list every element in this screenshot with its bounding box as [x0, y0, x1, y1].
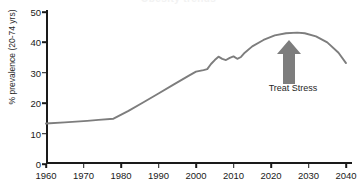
x-tick-label: 2030 [298, 170, 319, 181]
chart-figure: Obesity trends % prevalence (20-74 yrs) … [0, 0, 357, 183]
x-tick-mark [83, 164, 85, 168]
x-tick-label: 1990 [148, 170, 169, 181]
x-tick-mark [195, 164, 197, 168]
series-path-prevalence [46, 33, 346, 124]
y-tick-label: 0 [36, 159, 41, 170]
x-tick-mark [308, 164, 310, 168]
y-tick-label: 30 [30, 67, 41, 78]
x-tick-label: 2000 [185, 170, 206, 181]
x-tick-mark [345, 164, 347, 168]
x-tick-mark [120, 164, 122, 168]
x-tick-label: 2010 [223, 170, 244, 181]
x-tick-label: 2040 [335, 170, 356, 181]
x-tick-label: 2020 [260, 170, 281, 181]
y-tick-label: 50 [30, 7, 41, 18]
y-tick-label: 20 [30, 98, 41, 109]
y-tick-label: 10 [30, 128, 41, 139]
y-axis-title: % prevalence (20-74 yrs) [7, 0, 17, 127]
annotation-label-treat-stress: Treat Stress [258, 83, 328, 93]
chart-title: Obesity trends [0, 0, 357, 4]
x-tick-mark [158, 164, 160, 168]
x-tick-label: 1970 [73, 170, 94, 181]
x-tick-mark [270, 164, 272, 168]
x-tick-label: 1960 [35, 170, 56, 181]
x-tick-mark [45, 164, 47, 168]
x-tick-label: 1980 [110, 170, 131, 181]
y-tick-label: 40 [30, 37, 41, 48]
x-tick-mark [233, 164, 235, 168]
up-arrow-icon [277, 40, 301, 84]
